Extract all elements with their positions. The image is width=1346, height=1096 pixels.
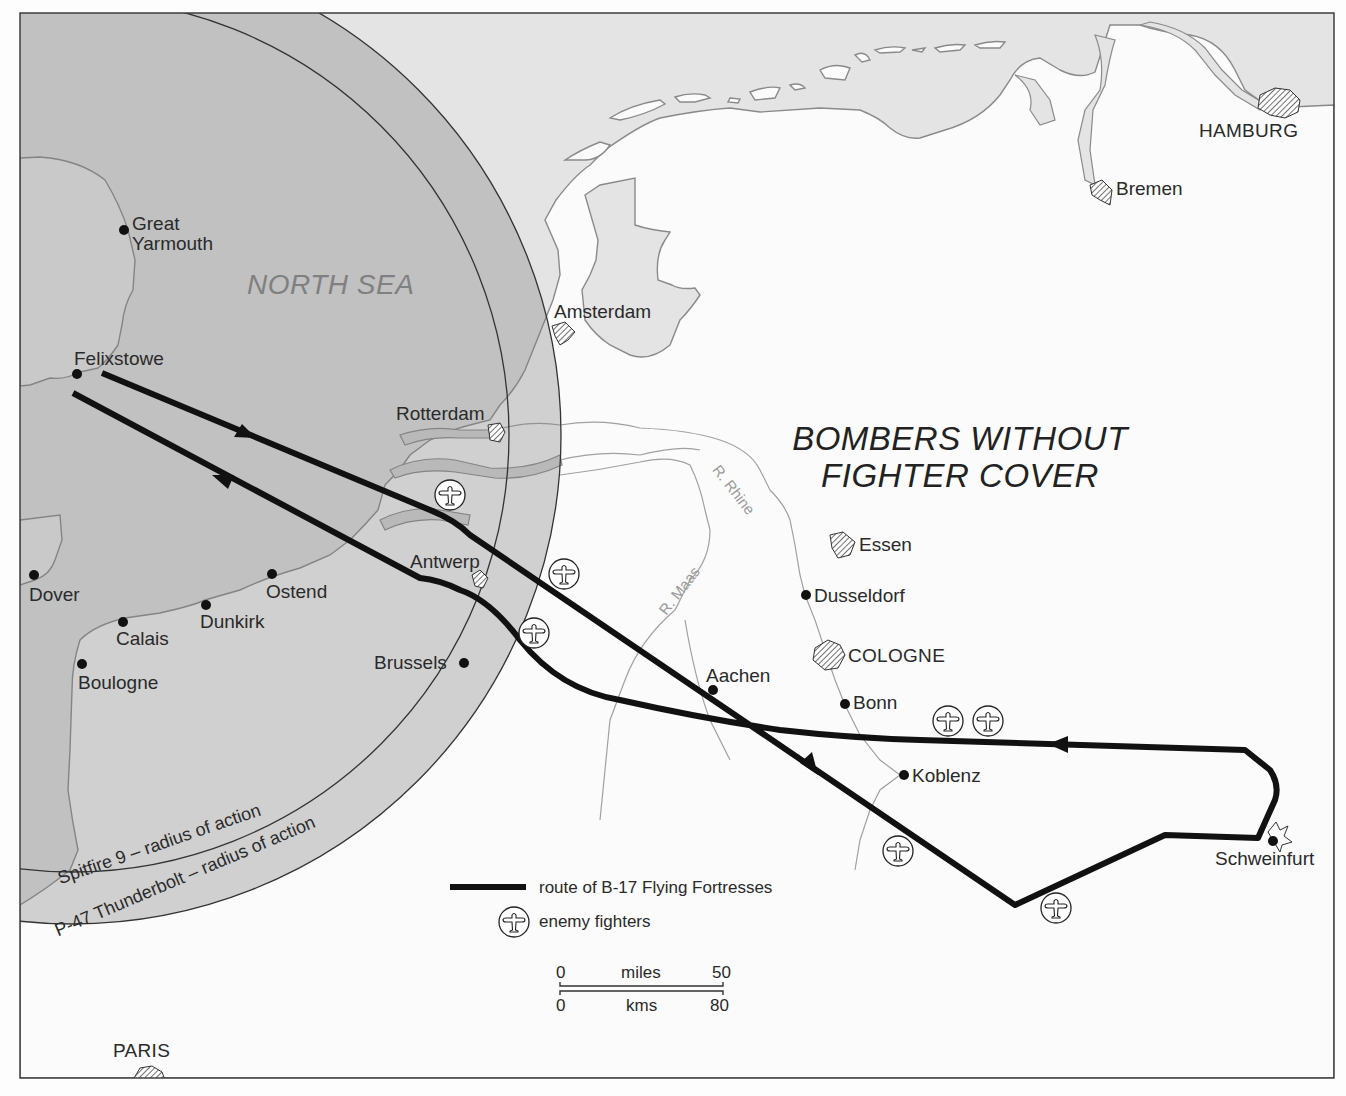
legend-fighter-icon	[499, 907, 529, 937]
place-cologne: COLOGNE	[848, 646, 945, 665]
scale-miles-start: 0	[556, 963, 565, 983]
place-dunkirk: Dunkirk	[200, 612, 264, 631]
place-dover: Dover	[29, 585, 80, 604]
place-hamburg: HAMBURG	[1199, 121, 1298, 140]
place-schweinfurt: Schweinfurt	[1215, 849, 1314, 868]
place-antwerp: Antwerp	[410, 552, 480, 571]
place-bremen: Bremen	[1116, 179, 1183, 198]
map-canvas	[0, 0, 1346, 1096]
map-title-line-1: BOMBERS WITHOUT	[770, 420, 1150, 457]
legend-fighters-label: enemy fighters	[539, 912, 651, 932]
place-dusseldorf: Dusseldorf	[814, 586, 905, 605]
legend-route-swatch	[450, 884, 526, 890]
place-koblenz: Koblenz	[912, 766, 981, 785]
map-title: BOMBERS WITHOUT FIGHTER COVER	[770, 420, 1150, 494]
place-rotterdam: Rotterdam	[396, 404, 485, 423]
place-brussels: Brussels	[374, 653, 447, 672]
place-bonn: Bonn	[853, 693, 897, 712]
place-paris: PARIS	[113, 1041, 170, 1060]
place-boulogne: Boulogne	[78, 673, 158, 692]
place-aachen: Aachen	[706, 666, 770, 685]
legend-route-label: route of B-17 Flying Fortresses	[539, 878, 772, 898]
scale-miles-end: 50	[712, 963, 731, 983]
scale-kms-end: 80	[710, 996, 729, 1016]
place-essen: Essen	[859, 535, 912, 554]
place-great-yarmouth: Great Yarmouth	[132, 214, 213, 254]
scale-kms-start: 0	[556, 996, 565, 1016]
place-calais: Calais	[116, 629, 169, 648]
scale-miles-unit: miles	[621, 963, 661, 983]
place-felixstowe: Felixstowe	[74, 349, 164, 368]
place-amsterdam: Amsterdam	[554, 302, 651, 321]
north-sea-label: NORTH SEA	[247, 269, 414, 301]
map-title-line-2: FIGHTER COVER	[770, 457, 1150, 494]
place-ostend: Ostend	[266, 582, 327, 601]
scale-kms-unit: kms	[626, 996, 657, 1016]
